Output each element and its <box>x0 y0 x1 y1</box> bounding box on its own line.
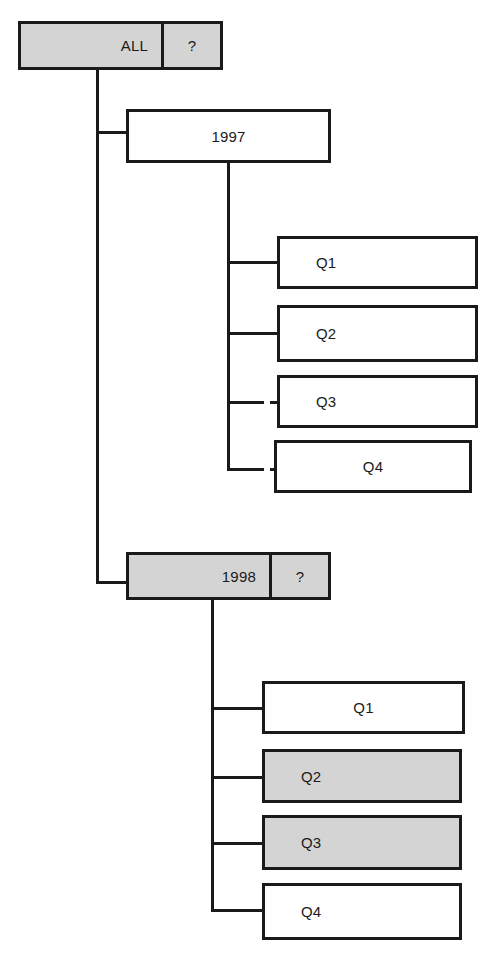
node-y1998-q1-label: Q1 <box>265 700 462 715</box>
connector-branch-1997-q3a <box>227 401 264 404</box>
node-y1998-question-mark-icon: ? <box>296 569 304 584</box>
node-y1998-q3-label: Q3 <box>265 835 459 850</box>
node-all[interactable]: ALL? <box>18 21 223 70</box>
node-y1997-label: 1997 <box>129 129 328 144</box>
connector-trunk-1998 <box>211 598 214 912</box>
connector-branch-1997-q2 <box>227 332 280 335</box>
node-y1998[interactable]: 1998? <box>126 552 331 600</box>
node-all-expand-cell[interactable]: ? <box>161 24 220 67</box>
node-y1998-expand-cell[interactable]: ? <box>269 555 328 597</box>
node-y1998-q3-main-cell: Q3 <box>265 818 459 867</box>
node-all-question-mark-icon: ? <box>188 38 196 53</box>
connector-branch-1998-q1 <box>211 707 265 710</box>
node-y1998-q2[interactable]: Q2 <box>262 749 462 803</box>
connector-branch-all-1997 <box>96 131 129 134</box>
connector-trunk-all <box>96 68 99 584</box>
connector-branch-1998-q2 <box>211 776 265 779</box>
node-y1997-q2-main-cell: Q2 <box>280 308 475 359</box>
node-all-label: ALL <box>21 38 161 53</box>
connector-branch-1997-q1 <box>227 261 280 264</box>
node-y1997-q2[interactable]: Q2 <box>277 305 478 362</box>
node-y1997-q3-main-cell: Q3 <box>280 378 475 425</box>
node-y1998-q1-main-cell: Q1 <box>265 684 462 731</box>
node-y1998-q2-label: Q2 <box>265 769 459 784</box>
node-y1998-main-cell: 1998 <box>129 555 269 597</box>
node-y1998-q4-main-cell: Q4 <box>265 886 459 937</box>
node-y1998-q1[interactable]: Q1 <box>262 681 465 734</box>
node-all-main-cell: ALL <box>21 24 161 67</box>
connector-trunk-1997 <box>227 161 230 471</box>
node-y1997[interactable]: 1997 <box>126 109 331 163</box>
node-y1997-q1[interactable]: Q1 <box>277 236 478 289</box>
node-y1998-q3[interactable]: Q3 <box>262 815 462 870</box>
node-y1997-q4-main-cell: Q4 <box>277 443 469 490</box>
node-y1997-q2-label: Q2 <box>280 326 475 341</box>
node-y1997-main-cell: 1997 <box>129 112 328 160</box>
connector-branch-all-1998 <box>96 581 129 584</box>
node-y1997-q1-label: Q1 <box>280 255 475 270</box>
node-y1997-q1-main-cell: Q1 <box>280 239 475 286</box>
node-y1997-q3-label: Q3 <box>280 394 475 409</box>
connector-branch-1998-q4 <box>211 909 265 912</box>
node-y1998-q4[interactable]: Q4 <box>262 883 462 940</box>
node-y1998-q2-main-cell: Q2 <box>265 752 459 800</box>
node-y1998-q4-label: Q4 <box>265 904 459 919</box>
node-y1997-q4[interactable]: Q4 <box>274 440 472 493</box>
connector-branch-1997-q4a <box>227 468 264 471</box>
node-y1998-label: 1998 <box>129 569 269 584</box>
node-y1997-q3[interactable]: Q3 <box>277 375 478 428</box>
connector-branch-1998-q3 <box>211 842 265 845</box>
node-y1997-q4-label: Q4 <box>277 459 469 474</box>
tree-diagram-canvas: ALL?1997Q1Q2Q3Q41998?Q1Q2Q3Q4 <box>0 0 498 969</box>
